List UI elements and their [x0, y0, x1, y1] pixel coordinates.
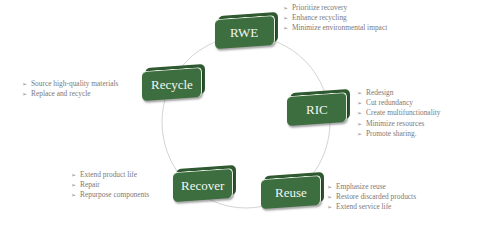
list-item: ➢Source high-quality materials: [22, 79, 118, 89]
ric-bullet-list: ➢Redesign ➢Cut redundancy ➢Create multif…: [357, 88, 441, 139]
arrowhead-bullet-icon: ➢: [283, 13, 292, 23]
arrowhead-bullet-icon: ➢: [327, 182, 336, 192]
arrowhead-bullet-icon: ➢: [71, 170, 80, 180]
arrowhead-bullet-icon: ➢: [283, 23, 292, 33]
arrowhead-bullet-icon: ➢: [357, 108, 366, 118]
list-item: ➢Repair: [71, 180, 149, 190]
list-item: ➢Promote sharing.: [357, 129, 441, 139]
list-item: ➢Cut redundancy: [357, 98, 441, 108]
node-recover: Recover: [173, 167, 233, 200]
arrowhead-bullet-icon: ➢: [71, 180, 80, 190]
list-item: ➢Enhance recycling: [283, 13, 387, 23]
node-label: Recover: [181, 178, 224, 194]
node-reuse: Reuse: [261, 174, 321, 207]
node-label: Reuse: [275, 185, 307, 201]
list-item: ➢Redesign: [357, 88, 441, 98]
list-item: ➢Emphasize reuse: [327, 182, 416, 192]
list-item: ➢Extend product life: [71, 170, 149, 180]
arrowhead-bullet-icon: ➢: [283, 3, 292, 13]
node-label: RIC: [306, 102, 328, 118]
node-label: Recycle: [151, 77, 193, 93]
node-label: RWE: [230, 25, 258, 41]
list-item: ➢Create multifunctionality: [357, 108, 441, 118]
arrowhead-bullet-icon: ➢: [357, 88, 366, 98]
arrowhead-bullet-icon: ➢: [22, 89, 31, 99]
arrowhead-bullet-icon: ➢: [357, 129, 366, 139]
node-rwe: RWE: [215, 14, 275, 47]
arrowhead-bullet-icon: ➢: [71, 190, 80, 200]
arrowhead-bullet-icon: ➢: [327, 192, 336, 202]
list-item: ➢Minimize resources: [357, 119, 441, 129]
list-item: ➢Extend service life: [327, 202, 416, 212]
arrowhead-bullet-icon: ➢: [357, 119, 366, 129]
arrowhead-bullet-icon: ➢: [327, 202, 336, 212]
list-item: ➢Replace and recycle: [22, 89, 118, 99]
list-item: ➢Repurpose components: [71, 190, 149, 200]
arrowhead-bullet-icon: ➢: [22, 79, 31, 89]
rwe-bullet-list: ➢Prioritize recovery ➢Enhance recycling …: [283, 3, 387, 34]
reuse-bullet-list: ➢Emphasize reuse ➢Restore discarded prod…: [327, 182, 416, 213]
recycle-bullet-list: ➢Source high-quality materials ➢Replace …: [22, 79, 118, 99]
list-item: ➢Prioritize recovery: [283, 3, 387, 13]
node-ric: RIC: [287, 91, 347, 124]
node-recycle: Recycle: [142, 66, 202, 99]
arrowhead-bullet-icon: ➢: [357, 98, 366, 108]
recover-bullet-list: ➢Extend product life ➢Repair ➢Repurpose …: [71, 170, 149, 201]
list-item: ➢Restore discarded products: [327, 192, 416, 202]
list-item: ➢Minimize environmental impact: [283, 23, 387, 33]
